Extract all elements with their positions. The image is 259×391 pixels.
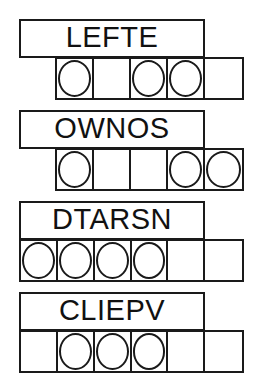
cell[interactable]	[168, 241, 205, 280]
cell[interactable]	[21, 332, 58, 371]
cell[interactable]	[131, 59, 168, 98]
circle-marker-icon	[96, 242, 129, 279]
word-label-2: OWNOS	[54, 114, 169, 143]
cell[interactable]	[205, 59, 242, 98]
cell[interactable]	[94, 59, 131, 98]
cell[interactable]	[58, 241, 95, 280]
word-box-2[interactable]: OWNOS	[19, 110, 205, 149]
cells-row-3	[19, 239, 244, 282]
circle-marker-icon	[133, 333, 166, 370]
puzzle-board: LEFTE OWNOS	[0, 0, 259, 391]
cells-row-4	[19, 330, 244, 373]
circle-marker-icon	[206, 151, 241, 188]
cell[interactable]	[94, 150, 131, 189]
circle-marker-icon	[22, 242, 55, 279]
word-label-1: LEFTE	[66, 23, 159, 52]
cell[interactable]	[205, 332, 242, 371]
cell[interactable]	[132, 241, 169, 280]
cell[interactable]	[21, 241, 58, 280]
cell[interactable]	[132, 332, 169, 371]
circle-marker-icon	[59, 242, 92, 279]
word-box-4[interactable]: CLIEPV	[19, 292, 205, 331]
cells-row-2	[55, 148, 244, 191]
circle-marker-icon	[58, 151, 91, 188]
circle-marker-icon	[59, 333, 92, 370]
cell[interactable]	[131, 150, 168, 189]
cell[interactable]	[168, 332, 205, 371]
cell[interactable]	[205, 150, 242, 189]
circle-marker-icon	[132, 60, 165, 97]
word-box-3[interactable]: DTARSN	[19, 201, 205, 240]
cell[interactable]	[95, 332, 132, 371]
cell[interactable]	[168, 150, 205, 189]
cell[interactable]	[58, 332, 95, 371]
cell[interactable]	[57, 59, 94, 98]
circle-marker-icon	[169, 60, 202, 97]
cell[interactable]	[95, 241, 132, 280]
cells-row-1	[55, 57, 244, 100]
circle-marker-icon	[58, 60, 91, 97]
cell[interactable]	[168, 59, 205, 98]
word-box-1[interactable]: LEFTE	[19, 19, 205, 58]
cell[interactable]	[57, 150, 94, 189]
circle-marker-icon	[96, 333, 129, 370]
word-label-4: CLIEPV	[59, 296, 165, 325]
circle-marker-icon	[133, 242, 166, 279]
word-label-3: DTARSN	[52, 205, 172, 234]
cell[interactable]	[205, 241, 242, 280]
circle-marker-icon	[169, 151, 202, 188]
